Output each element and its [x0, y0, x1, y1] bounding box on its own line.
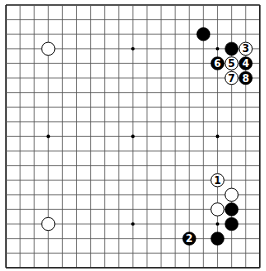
black-stone[interactable]: 8 — [239, 71, 252, 84]
star-point — [216, 47, 220, 51]
black-stone[interactable] — [197, 28, 210, 41]
stone-circle — [197, 28, 210, 41]
black-stone[interactable] — [225, 42, 238, 55]
white-stone[interactable]: 1 — [211, 174, 224, 187]
black-stone[interactable] — [225, 217, 238, 230]
stone-circle — [225, 188, 238, 201]
move-number-label: 1 — [214, 175, 221, 186]
star-point — [216, 135, 220, 139]
white-stone[interactable] — [211, 203, 224, 216]
black-stone[interactable]: 6 — [211, 57, 224, 70]
white-stone[interactable] — [42, 217, 55, 230]
move-number-label: 3 — [242, 43, 249, 54]
stone-circle — [42, 42, 55, 55]
star-point — [131, 47, 135, 51]
star-point — [131, 222, 135, 226]
go-board: 36547812 — [0, 0, 266, 271]
stone-circle — [211, 203, 224, 216]
white-stone[interactable]: 7 — [225, 71, 238, 84]
black-stone[interactable] — [211, 232, 224, 245]
black-stone[interactable] — [225, 203, 238, 216]
white-stone[interactable]: 5 — [225, 57, 238, 70]
move-number-label: 8 — [242, 73, 249, 84]
black-stone[interactable]: 4 — [239, 57, 252, 70]
white-stone[interactable]: 3 — [239, 42, 252, 55]
star-point — [47, 135, 51, 139]
stone-circle — [211, 232, 224, 245]
stone-circle — [42, 217, 55, 230]
stone-circle — [225, 217, 238, 230]
white-stone[interactable] — [42, 42, 55, 55]
move-number-label: 2 — [186, 233, 193, 244]
stone-circle — [225, 203, 238, 216]
black-stone[interactable]: 2 — [183, 232, 196, 245]
move-number-label: 6 — [214, 58, 221, 69]
move-number-label: 5 — [228, 58, 235, 69]
star-point — [216, 222, 220, 226]
star-point — [131, 135, 135, 139]
stone-circle — [225, 42, 238, 55]
move-number-label: 7 — [228, 73, 235, 84]
move-number-label: 4 — [242, 58, 249, 69]
white-stone[interactable] — [225, 188, 238, 201]
